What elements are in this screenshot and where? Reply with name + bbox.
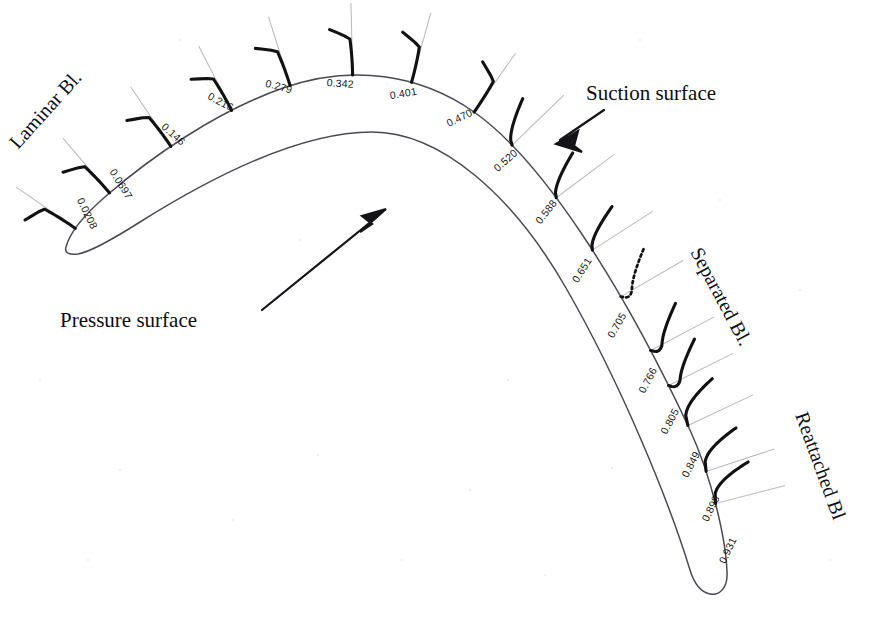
station-label: 0.898: [699, 493, 722, 523]
velocity-profile-reattached: [715, 462, 748, 503]
velocity-profile-laminar: [403, 32, 420, 82]
station-0-0697: [63, 138, 112, 195]
station-0-401: [403, 13, 431, 83]
station-label: 0.0697: [107, 167, 135, 202]
blade-outline-group: [66, 75, 728, 594]
station-0-342: [330, 3, 357, 75]
velocity-profile-transitional: [511, 99, 523, 146]
station-label: 0.931: [716, 535, 738, 565]
velocity-profile-transitional: [555, 153, 572, 198]
station-normal-line: [651, 317, 715, 351]
station-normal-line: [621, 260, 683, 296]
station-0-279: [255, 17, 293, 87]
station-normal-line: [669, 353, 733, 385]
velocity-profile-laminar: [474, 62, 493, 112]
velocity-profile-separated: [651, 303, 676, 351]
regime-laminar: Laminar Bl.: [5, 66, 86, 153]
station-0-520: [510, 95, 564, 148]
pressure-surface-arrow-head: [360, 209, 386, 232]
blade-boundary-layer-diagram: 0.02080.06970.1460.2160.2790.3420.4010.4…: [0, 0, 879, 626]
station-0-849: [686, 379, 753, 429]
station-label: 0.705: [605, 310, 629, 340]
station-normal-line: [715, 485, 785, 503]
station-normal-line: [592, 211, 653, 250]
regime-label-reattached: Reattached Bl: [791, 409, 850, 523]
station-label: 0.342: [326, 76, 354, 90]
velocity-profile-laminar: [330, 30, 353, 75]
suction-surface-arrow-shaft: [560, 110, 604, 140]
station-label: 0.651: [569, 255, 594, 284]
velocity-profile-reattached: [686, 379, 713, 426]
pressure-surface-callout: Pressure surface: [60, 209, 386, 332]
station-0-470: [471, 53, 515, 114]
station-label: 0.0208: [75, 196, 100, 231]
station-0-766: [649, 303, 714, 353]
figure-canvas: 0.02080.06970.1460.2160.2790.3420.4010.4…: [0, 0, 879, 626]
velocity-profile-laminar: [63, 167, 110, 193]
station-0-146: [127, 87, 174, 149]
station-0-931: [715, 462, 786, 507]
station-normal-line: [556, 155, 614, 198]
regime-label-separated: Separated Bl.: [686, 244, 757, 350]
station-0-705: [619, 249, 683, 300]
regime-reattached: Reattached Bl: [791, 409, 850, 523]
regime-separated: Separated Bl.: [686, 244, 757, 350]
suction-surface-label: Suction surface: [586, 81, 716, 105]
velocity-profile-laminar: [25, 209, 75, 228]
blade-outline-path: [66, 75, 728, 594]
station-label: 0.849: [679, 449, 702, 479]
station-label: 0.588: [533, 197, 559, 226]
station-0-651: [590, 207, 652, 253]
station-0-588: [554, 153, 614, 201]
pressure-surface-label: Pressure surface: [60, 308, 197, 332]
station-label: 0.766: [636, 365, 659, 395]
station-normal-line: [688, 395, 753, 426]
station-label: 0.520: [491, 146, 519, 173]
station-label: 0.470: [444, 106, 474, 129]
velocity-profile-separated: [669, 339, 695, 387]
velocity-profile-reattached: [705, 428, 736, 472]
station-label: 0.805: [658, 406, 681, 436]
velocity-profile-separated: [621, 249, 644, 298]
station-0-805: [667, 339, 733, 389]
regime-label-laminar: Laminar Bl.: [5, 66, 86, 153]
suction-surface-callout: Suction surface: [556, 81, 716, 152]
station-0-0208: [16, 187, 77, 231]
station-label: 0.401: [389, 85, 418, 102]
